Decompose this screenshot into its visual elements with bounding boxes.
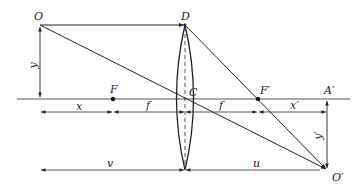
label-u: u <box>253 158 260 169</box>
label-A-prime: A′ <box>324 85 334 96</box>
lens-diagram: O D F C F′ A′ O′ y x f f x′ y′ v u <box>0 0 359 186</box>
focus-point-back <box>256 97 260 101</box>
label-f-front: f <box>146 100 150 111</box>
label-v: v <box>107 158 113 169</box>
label-D: D <box>181 11 190 22</box>
label-F: F <box>110 84 118 95</box>
focus-point-front <box>111 97 115 101</box>
label-x: x <box>76 101 82 112</box>
label-O: O <box>34 11 43 22</box>
label-y: y <box>28 62 39 68</box>
label-y-prime: y′ <box>313 131 324 140</box>
diagram-canvas <box>0 0 359 186</box>
label-F-prime: F′ <box>260 85 270 96</box>
point-d <box>184 24 187 27</box>
label-x-prime: x′ <box>290 100 299 111</box>
ray-through-focus <box>185 25 326 169</box>
label-C: C <box>189 87 197 98</box>
label-f-back: f <box>219 100 223 111</box>
ray-through-center <box>40 25 326 169</box>
label-O-prime: O′ <box>332 172 344 183</box>
